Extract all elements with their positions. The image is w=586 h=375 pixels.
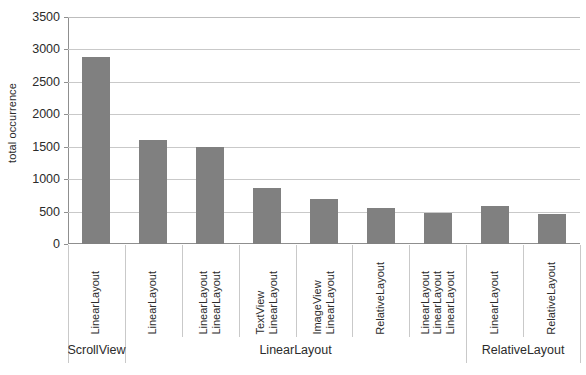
- category-label-band: LinearLayoutLinearLayoutLinearLayoutLine…: [68, 245, 580, 337]
- category-separator: [580, 245, 581, 337]
- category-label-line: LinearLayout: [268, 271, 280, 335]
- category-separator: [409, 245, 410, 337]
- y-tick-label: 3000: [32, 43, 60, 56]
- plot-area: [68, 17, 580, 244]
- y-tick-label: 2500: [32, 76, 60, 89]
- group-separator: [466, 337, 467, 363]
- group-label: ScrollView: [67, 343, 125, 357]
- gridline: [68, 49, 580, 50]
- category-separator: [125, 245, 126, 337]
- category-label-line: LinearLayout: [148, 271, 160, 335]
- group-label: RelativeLayout: [482, 343, 565, 357]
- group-label-band: ScrollViewLinearLayoutRelativeLayout: [68, 337, 580, 375]
- bar: [310, 199, 338, 244]
- category-label-line: ImageView: [312, 271, 324, 335]
- category-label-line: RelativeLayout: [546, 262, 558, 335]
- category-label: TextViewLinearLayout: [255, 271, 279, 335]
- category-label: LinearLayout: [91, 271, 103, 335]
- gridline: [68, 114, 580, 115]
- bar-chart: total occurrence 05001000150020002500300…: [0, 0, 586, 375]
- y-tick-mark: [64, 212, 68, 213]
- category-label-line: LinearLayout: [211, 271, 223, 335]
- category-label-line: RelativeLayout: [375, 262, 387, 335]
- bar: [538, 214, 566, 244]
- category-label: RelativeLayout: [546, 262, 558, 335]
- y-tick-mark: [64, 17, 68, 18]
- y-tick-mark: [64, 82, 68, 83]
- y-tick-mark: [64, 147, 68, 148]
- category-separator: [296, 245, 297, 337]
- bar: [139, 140, 167, 244]
- category-label: LinearLayout: [148, 271, 160, 335]
- category-label-line: LinearLayout: [445, 271, 457, 335]
- category-separator: [466, 245, 467, 337]
- category-separator: [352, 245, 353, 337]
- y-axis-tick-labels: 0500100015002000250030003500: [24, 0, 64, 250]
- category-label-line: LinearLayout: [325, 271, 337, 335]
- category-label-line: LinearLayout: [432, 271, 444, 335]
- category-label-line: LinearLayout: [489, 271, 501, 335]
- y-tick-mark: [64, 49, 68, 50]
- category-label: LinearLayout: [489, 271, 501, 335]
- group-label: LinearLayout: [259, 343, 331, 357]
- y-tick-label: 0: [53, 238, 60, 251]
- category-label-line: LinearLayout: [198, 271, 210, 335]
- gridline: [68, 17, 580, 18]
- y-tick-label: 1500: [32, 140, 60, 153]
- y-tick-label: 2000: [32, 108, 60, 121]
- category-label: LinearLayoutLinearLayout: [198, 271, 222, 335]
- y-tick-mark: [64, 114, 68, 115]
- bar: [481, 206, 509, 244]
- bar: [367, 208, 395, 244]
- category-separator: [68, 245, 69, 337]
- category-label: ImageViewLinearLayout: [312, 271, 336, 335]
- category-label-line: LinearLayout: [419, 271, 431, 335]
- y-tick-label: 500: [39, 205, 60, 218]
- category-separator: [523, 245, 524, 337]
- category-label: LinearLayoutLinearLayoutLinearLayout: [419, 271, 456, 335]
- y-tick-label: 1000: [32, 173, 60, 186]
- y-axis-title: total occurrence: [0, 0, 24, 245]
- bar: [424, 213, 452, 244]
- gridline: [68, 82, 580, 83]
- bar: [253, 188, 281, 244]
- category-label-line: LinearLayout: [91, 271, 103, 335]
- y-axis-title-text: total occurrence: [6, 83, 18, 163]
- bar: [82, 57, 110, 244]
- category-separator: [182, 245, 183, 337]
- category-separator: [239, 245, 240, 337]
- category-label-line: TextView: [255, 271, 267, 335]
- group-separator: [580, 337, 581, 363]
- y-tick-mark: [64, 179, 68, 180]
- category-label: RelativeLayout: [375, 262, 387, 335]
- y-axis-line: [68, 17, 69, 244]
- bar: [196, 147, 224, 244]
- y-tick-label: 3500: [32, 11, 60, 24]
